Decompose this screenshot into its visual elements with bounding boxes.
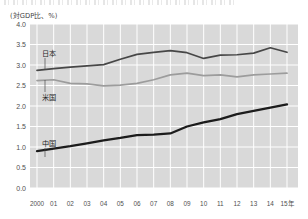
y-axis-tick-label: 0.5 (16, 164, 26, 171)
y-axis-tick-label: 3.5 (16, 41, 26, 48)
x-axis-tick-label: 08 (167, 200, 175, 207)
x-axis-tick-label: 02 (67, 200, 75, 207)
y-axis-tick-label: 2.5 (16, 82, 26, 89)
x-axis-tick-label: 01 (50, 200, 58, 207)
y-axis-tick-label: 1.0 (16, 144, 26, 151)
x-axis-tick-label: 06 (133, 200, 141, 207)
x-axis-tick-label: 13 (250, 200, 258, 207)
x-axis-tick-label: 2000 (30, 200, 45, 207)
x-axis-tick-labels: 2000010203040506070809101112131415年 (30, 199, 295, 208)
chart-page: (対GDP比、%) 0.00.51.01.52.02.53.03.54.0 20… (0, 0, 308, 219)
y-axis-unit-label: (対GDP比、%) (10, 11, 58, 20)
x-axis-tick-label: 09 (183, 200, 191, 207)
series-label-china: 中国 (42, 139, 56, 148)
x-axis-tick-label: 03 (83, 200, 91, 207)
y-axis-tick-labels: 0.00.51.01.52.02.53.03.54.0 (16, 21, 26, 192)
y-axis-tick-label: 4.0 (16, 21, 26, 28)
x-axis-tick-label: 10 (200, 200, 208, 207)
series-label-usa: 米国 (42, 93, 56, 102)
x-axis-tick-label: 07 (150, 200, 158, 207)
x-axis-tick-label: 12 (233, 200, 241, 207)
rd-expenditure-line-chart: (対GDP比、%) 0.00.51.01.52.02.53.03.54.0 20… (0, 0, 308, 219)
x-axis-tick-label: 15年 (280, 199, 294, 208)
y-axis-tick-label: 3.0 (16, 62, 26, 69)
y-axis-tick-label: 2.0 (16, 103, 26, 110)
x-axis-tick-label: 14 (267, 200, 275, 207)
x-axis-tick-label: 11 (217, 200, 224, 207)
y-axis-tick-label: 0.0 (16, 185, 26, 192)
x-axis-tick-label: 05 (117, 200, 125, 207)
series-label-japan: 日本 (42, 49, 56, 58)
x-axis-tick-label: 04 (100, 200, 108, 207)
y-axis-tick-label: 1.5 (16, 123, 26, 130)
